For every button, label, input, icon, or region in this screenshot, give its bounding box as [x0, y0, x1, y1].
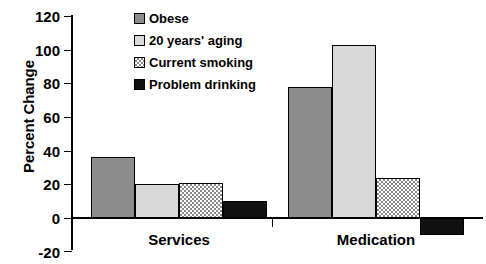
- chart-legend: Obese 20 years' aging Current smoking Pr…: [134, 8, 324, 96]
- legend-swatch-obese-icon: [134, 13, 145, 24]
- bar-services-20-years-aging: [135, 184, 179, 218]
- legend-item-current-smoking: Current smoking: [134, 52, 324, 73]
- bar-services-problem-drinking: [223, 201, 267, 218]
- legend-label-obese: Obese: [149, 12, 189, 25]
- x-tick-mark-group-divider: [272, 219, 273, 227]
- y-axis-line: [71, 15, 73, 250]
- legend-label-problem-drinking: Problem drinking: [149, 78, 256, 91]
- bar-medication-obese: [288, 87, 332, 218]
- legend-item-obese: Obese: [134, 8, 324, 29]
- bar-services-current-smoking: [179, 183, 223, 218]
- y-tick-label-100: 100: [0, 43, 60, 58]
- x-axis-label-medication: Medication: [316, 231, 436, 248]
- y-tick-label-neg20: -20: [0, 245, 60, 260]
- legend-item-20-years-aging: 20 years' aging: [134, 30, 324, 51]
- y-tick-label-0: 0: [0, 211, 60, 226]
- bar-chart: Percent Change 120 100 80 60 40 20 0 -20…: [0, 0, 486, 264]
- y-tick-mark-neg20: [64, 251, 72, 252]
- legend-label-current-smoking: Current smoking: [149, 56, 253, 69]
- y-tick-label-120: 120: [0, 9, 60, 24]
- bar-medication-20-years-aging: [332, 45, 376, 218]
- bar-medication-current-smoking: [376, 178, 420, 218]
- y-tick-label-80: 80: [0, 76, 60, 91]
- legend-item-problem-drinking: Problem drinking: [134, 74, 324, 95]
- y-tick-label-40: 40: [0, 144, 60, 159]
- y-tick-label-20: 20: [0, 177, 60, 192]
- bar-services-obese: [91, 157, 135, 218]
- legend-label-20-years-aging: 20 years' aging: [149, 34, 242, 47]
- legend-swatch-20-years-aging-icon: [134, 35, 145, 46]
- legend-swatch-problem-drinking-icon: [134, 79, 145, 90]
- y-tick-label-60: 60: [0, 110, 60, 125]
- legend-swatch-current-smoking-icon: [134, 57, 145, 68]
- x-axis-label-services: Services: [119, 231, 239, 248]
